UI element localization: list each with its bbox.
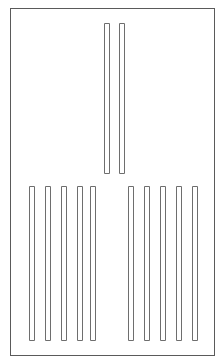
- bar: [78, 187, 83, 341]
- bar: [91, 187, 96, 341]
- bar: [177, 187, 182, 341]
- bar: [120, 24, 125, 174]
- bar: [161, 187, 166, 341]
- bar: [145, 187, 150, 341]
- bar: [46, 187, 51, 341]
- bar: [193, 187, 198, 341]
- figure-canvas: [0, 0, 223, 363]
- figure-root: [0, 0, 223, 363]
- outer-frame: [11, 9, 215, 356]
- bar: [30, 187, 35, 341]
- bar: [62, 187, 67, 341]
- bar: [105, 24, 110, 174]
- bar: [129, 187, 134, 341]
